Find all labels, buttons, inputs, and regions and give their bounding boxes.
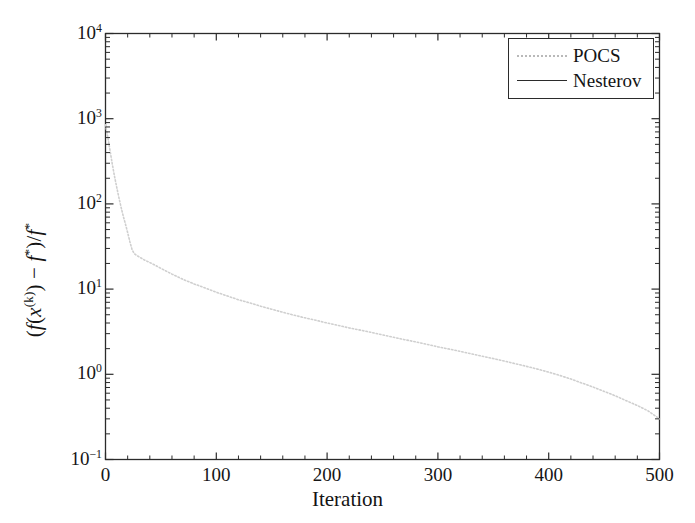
- legend-label-pocs: POCS: [573, 46, 621, 65]
- legend-entry-pocs: POCS: [515, 43, 647, 68]
- legend-entry-nesterov: Nesterov: [515, 68, 647, 93]
- x-tick-label: 400: [534, 465, 563, 484]
- legend-box: POCS Nesterov: [508, 38, 654, 99]
- x-tick-label: 100: [202, 465, 231, 484]
- legend-sample-solid-icon: [515, 74, 569, 88]
- figure-container: (f(x(k)) − f*)/f* 10410310210110010−1 01…: [0, 0, 695, 523]
- x-axis-label: Iteration: [0, 487, 695, 512]
- x-tick-label: 0: [101, 465, 111, 484]
- x-tick-label: 300: [424, 465, 453, 484]
- legend-label-nesterov: Nesterov: [573, 71, 642, 90]
- x-tick-label: 500: [645, 465, 674, 484]
- x-tick-label: 200: [313, 465, 342, 484]
- legend-sample-dotted-icon: [515, 49, 569, 63]
